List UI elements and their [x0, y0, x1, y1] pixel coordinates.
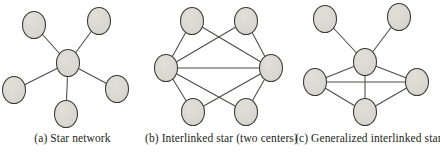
- graph-node: [182, 99, 205, 126]
- graph-node: [235, 99, 258, 126]
- graph-node: [314, 6, 337, 33]
- graph-node: [181, 8, 204, 35]
- star-network-graph: [0, 0, 145, 130]
- graph-node: [155, 55, 178, 82]
- graph-edge: [166, 21, 246, 68]
- graph-node: [354, 49, 377, 76]
- graph-node: [57, 50, 80, 77]
- graph-edge: [166, 68, 246, 112]
- graph-node: [106, 76, 129, 103]
- graph-node: [88, 8, 111, 35]
- node-group: [155, 8, 283, 126]
- graph-node: [406, 69, 429, 96]
- graph-node: [235, 8, 258, 35]
- node-group: [304, 4, 429, 126]
- node-group: [3, 8, 129, 128]
- graph-node: [354, 99, 377, 126]
- caption-b: (b) Interlinked star (two centers): [145, 132, 295, 144]
- graph-node: [388, 4, 411, 31]
- interlinked-star-graph: [145, 0, 295, 130]
- graph-edge: [193, 68, 271, 112]
- graph-node: [304, 69, 327, 96]
- edge-group: [166, 21, 271, 112]
- graph-edge: [192, 21, 271, 68]
- panel-generalized-interlinked-star: (c) Generalized interlinked star: [295, 0, 440, 154]
- panel-star-network: (a) Star network: [0, 0, 145, 154]
- network-topology-figure: (a) Star network (b) Interlinked star (t…: [0, 0, 440, 154]
- generalized-interlinked-star-graph: [295, 0, 440, 130]
- graph-node: [55, 101, 78, 128]
- graph-node: [3, 77, 26, 104]
- graph-node: [260, 55, 283, 82]
- panel-interlinked-star: (b) Interlinked star (two centers): [145, 0, 295, 154]
- caption-c: (c) Generalized interlinked star: [295, 132, 440, 144]
- caption-a: (a) Star network: [0, 132, 145, 144]
- graph-node: [23, 12, 46, 39]
